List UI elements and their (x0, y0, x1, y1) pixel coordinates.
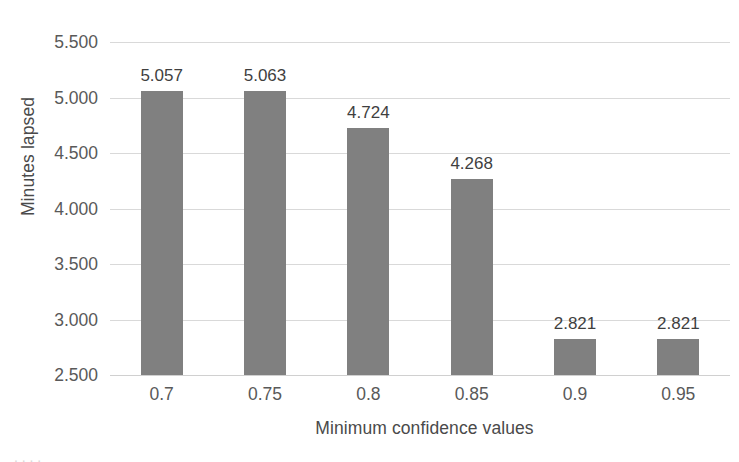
bar[interactable] (244, 91, 286, 375)
y-axis-tick-label: 5.500 (24, 32, 98, 53)
gridline (110, 209, 730, 210)
bar-value-label: 4.724 (323, 103, 413, 123)
bar[interactable] (141, 91, 183, 375)
y-axis-tick-label: 2.500 (24, 365, 98, 386)
gridline (110, 375, 730, 376)
bar-chart: Minutes lapsed 5.5005.0004.5004.0003.500… (0, 0, 739, 462)
y-axis-tick-label: 4.000 (24, 198, 98, 219)
bar[interactable] (657, 339, 699, 375)
y-axis-tick-label: 5.000 (24, 87, 98, 108)
gridline (110, 42, 730, 43)
y-axis-tick-label: 4.500 (24, 143, 98, 164)
x-axis-tick-label: 0.7 (117, 384, 207, 405)
y-axis-tick-label: 3.500 (24, 254, 98, 275)
caption-fragment: . . . . (14, 449, 514, 462)
x-axis-tick-label: 0.75 (220, 384, 310, 405)
bar[interactable] (347, 128, 389, 375)
x-axis-tick-label: 0.95 (633, 384, 723, 405)
x-axis-tick-label: 0.8 (323, 384, 413, 405)
x-axis-tick-label: 0.85 (427, 384, 517, 405)
bar-value-label: 2.821 (633, 314, 723, 334)
bar-value-label: 4.268 (427, 154, 517, 174)
bar-value-label: 2.821 (530, 314, 620, 334)
bar[interactable] (554, 339, 596, 375)
y-axis-tick-label: 3.000 (24, 309, 98, 330)
x-axis-title: Minimum confidence values (110, 418, 739, 439)
gridline (110, 98, 730, 99)
x-axis-tick-label: 0.9 (530, 384, 620, 405)
bar[interactable] (451, 179, 493, 375)
gridline (110, 264, 730, 265)
bar-value-label: 5.063 (220, 66, 310, 86)
gridline (110, 153, 730, 154)
bar-value-label: 5.057 (117, 66, 207, 86)
